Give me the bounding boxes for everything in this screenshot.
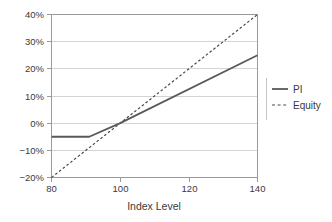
legend-label-pi[interactable]: PI <box>293 84 302 95</box>
y-axis-ticks <box>47 15 51 178</box>
y-axis-tick-labels: 40% 30% 20% 10% 0% −10% −20% <box>19 9 44 183</box>
chart-container: 40% 30% 20% 10% 0% −10% −20% 80 100 120 … <box>0 0 332 222</box>
y-tick-label-neg20: −20% <box>19 172 44 183</box>
y-tick-label-30: 30% <box>25 36 45 47</box>
y-tick-label-neg10: −10% <box>19 145 44 156</box>
x-axis-ticks <box>52 178 258 182</box>
x-axis-title: Index Level <box>127 200 181 212</box>
x-axis-tick-labels: 80 100 120 140 <box>46 183 265 194</box>
line-chart: 40% 30% 20% 10% 0% −10% −20% 80 100 120 … <box>0 0 332 222</box>
y-tick-label-0: 0% <box>30 118 44 129</box>
x-tick-label-100: 100 <box>113 183 129 194</box>
x-tick-label-120: 120 <box>182 183 198 194</box>
y-tick-label-20: 20% <box>25 63 45 74</box>
legend-label-equity[interactable]: Equity <box>293 100 321 111</box>
x-tick-label-80: 80 <box>46 183 57 194</box>
y-tick-label-40: 40% <box>25 9 45 20</box>
x-tick-label-140: 140 <box>250 183 266 194</box>
legend: PI Equity <box>267 78 321 120</box>
y-tick-label-10: 10% <box>25 91 45 102</box>
